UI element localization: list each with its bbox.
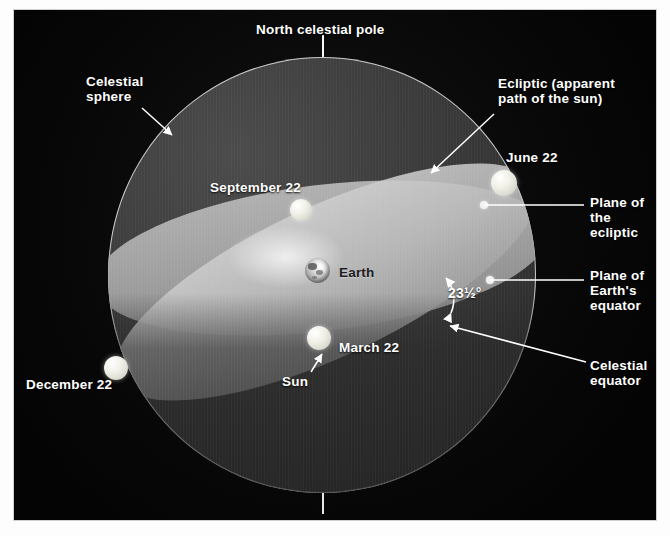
plane-of-ecliptic-anchor-dot	[480, 201, 488, 209]
september-22-sun-marker	[290, 199, 312, 221]
plane-of-equator-anchor-dot	[486, 276, 494, 284]
earth-globe	[305, 258, 330, 283]
label-celestial-sphere: Celestial sphere	[86, 74, 143, 104]
label-june-22: June 22	[506, 150, 558, 165]
june-22-sun-marker	[491, 170, 517, 196]
label-plane-of-the-ecliptic: Plane of the ecliptic	[590, 195, 656, 240]
south-pole-axis-tick	[322, 492, 324, 514]
celestial-sphere-diagram: North celestial pole Celestial sphere Ec…	[0, 0, 670, 536]
label-earth: Earth	[339, 265, 375, 280]
diagram-plate: North celestial pole Celestial sphere Ec…	[14, 10, 656, 520]
label-celestial-equator: Celestial equator	[590, 358, 647, 388]
label-september-22: September 22	[210, 180, 301, 195]
label-north-celestial-pole: North celestial pole	[256, 22, 385, 37]
label-december-22: December 22	[26, 377, 112, 392]
label-march-22: March 22	[339, 340, 399, 355]
march-22-sun-marker	[307, 326, 331, 350]
label-ecliptic: Ecliptic (apparent path of the sun)	[498, 76, 615, 106]
label-sun: Sun	[282, 374, 308, 389]
label-plane-of-earths-equator: Plane of Earth's equator	[590, 268, 644, 313]
label-tilt-angle: 23½°	[448, 286, 482, 301]
